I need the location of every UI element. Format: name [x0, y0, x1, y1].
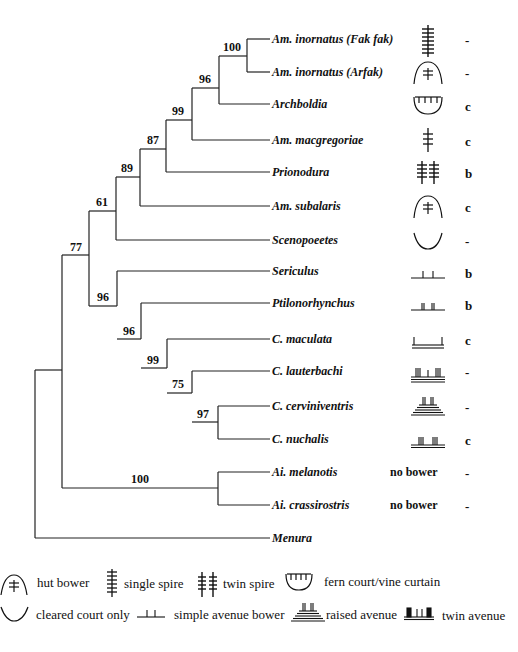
support-value: 96: [123, 325, 135, 337]
bower-code: -: [465, 401, 469, 415]
simple-avenue-icon: [408, 260, 448, 286]
taxon-label: Scenopoeetes: [272, 233, 338, 247]
bower-code: -: [465, 235, 469, 249]
bower-code: c: [465, 100, 471, 114]
bower-code: b: [465, 299, 472, 313]
fern-court-icon: [284, 571, 314, 593]
support-value: 96: [97, 291, 109, 303]
single-spire-icon: [408, 24, 448, 58]
single-spire-icon: [104, 568, 120, 598]
taxon-label: C. maculata: [272, 332, 332, 346]
legend-hut-bower: hut bower: [37, 575, 89, 590]
support-value: 89: [121, 162, 133, 174]
bower-code: c: [465, 434, 471, 448]
bower-code: c: [465, 334, 471, 348]
taxon-label: Archboldia: [272, 97, 327, 111]
bower-code: -: [465, 500, 469, 514]
taxon-label: Ai. melanotis: [272, 465, 337, 479]
no-bower-label: no bower: [390, 465, 438, 479]
taxon-label: Prionodura: [272, 165, 329, 179]
bower-code: b: [465, 167, 472, 181]
cleared-court-icon: [408, 229, 448, 255]
twin-spire-icon: [196, 570, 220, 598]
legend-twin-spire: twin spire: [223, 576, 275, 591]
hut-bower-icon: [408, 59, 448, 85]
taxon-label: Sericulus: [272, 264, 319, 278]
fern-court-icon: [408, 92, 448, 118]
support-value: 96: [199, 73, 211, 85]
support-value: 75: [172, 378, 184, 390]
bower-code: -: [465, 67, 469, 81]
support-value: 99: [147, 354, 159, 366]
support-value: 100: [131, 473, 149, 485]
support-value: 100: [223, 41, 241, 53]
twin-avenue-icon: [402, 603, 436, 623]
legend-simple-avenue: simple avenue bower: [174, 607, 284, 622]
legend-cleared-court: cleared court only: [36, 607, 130, 622]
bower-code: c: [465, 135, 471, 149]
hut-bower-icon: [408, 193, 448, 219]
support-value: 61: [96, 196, 108, 208]
taxon-label: Am. macgregoriae: [272, 133, 363, 147]
cleared-court-icon: [0, 604, 30, 624]
taxon-label: Menura: [272, 531, 312, 545]
support-value: 97: [197, 408, 209, 420]
single-spire-icon: [408, 127, 448, 153]
bower-code: -: [465, 34, 469, 48]
support-value: 87: [147, 134, 159, 146]
taxon-label: Ptilonorhynchus: [272, 296, 355, 310]
raised-avenue-icon: [408, 394, 448, 420]
support-value: 77: [70, 241, 82, 253]
bower-code: c: [465, 201, 471, 215]
simple-avenue-icon: [408, 292, 448, 318]
twin-avenue-icon: [408, 360, 448, 386]
raised-avenue-icon: [290, 601, 326, 625]
taxon-label: C. lauterbachi: [272, 364, 343, 378]
legend-raised-avenue: raised avenue: [326, 607, 397, 622]
legend-single-spire: single spire: [124, 576, 184, 591]
simple-avenue-icon: [408, 428, 448, 454]
legend-twin-avenue: twin avenue: [442, 608, 505, 623]
simple-avenue-icon: [408, 328, 448, 354]
simple-avenue-icon: [135, 605, 167, 621]
taxon-label: Am. inornatus (Fak fak): [272, 32, 393, 46]
bower-code: b: [465, 267, 472, 281]
no-bower-label: no bower: [390, 498, 438, 512]
support-value: 99: [172, 105, 184, 117]
taxon-label: Am. subalaris: [272, 199, 341, 213]
taxon-label: Ai. crassirostris: [272, 498, 349, 512]
taxon-label: Am. inornatus (Arfak): [272, 65, 383, 79]
taxon-label: C. cerviniventris: [272, 399, 353, 413]
twin-spire-icon: [408, 159, 448, 185]
hut-bower-icon: [0, 572, 30, 596]
legend-fern-court: fern court/vine curtain: [324, 574, 440, 589]
bower-code: -: [465, 467, 469, 481]
bower-code: -: [465, 366, 469, 380]
taxon-label: C. nuchalis: [272, 432, 329, 446]
